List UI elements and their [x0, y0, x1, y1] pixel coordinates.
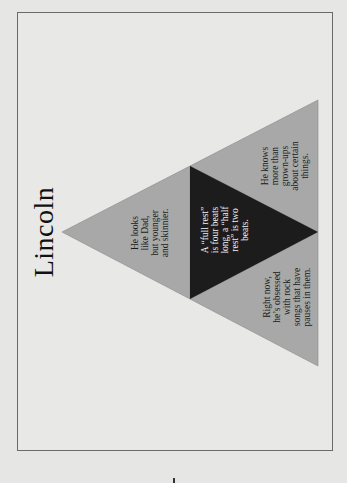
text-line: and skinnier.	[161, 209, 171, 258]
text-line: things.	[301, 141, 311, 190]
cursor-icon	[173, 478, 175, 483]
text-line: beats.	[241, 206, 251, 253]
text-line: pauses in them.	[303, 268, 313, 327]
cell-left-text: He knows more than grown-ups about certa…	[261, 141, 311, 190]
slide-title: Lincoln	[29, 187, 58, 278]
cell-top-text: He looks like Dad, but younger and skinn…	[131, 209, 171, 258]
cell-center-text: A “full rest” is four beats long, a “hal…	[201, 206, 251, 253]
cell-right-text: Right now, he’s obsessed with rock songs…	[263, 268, 313, 327]
